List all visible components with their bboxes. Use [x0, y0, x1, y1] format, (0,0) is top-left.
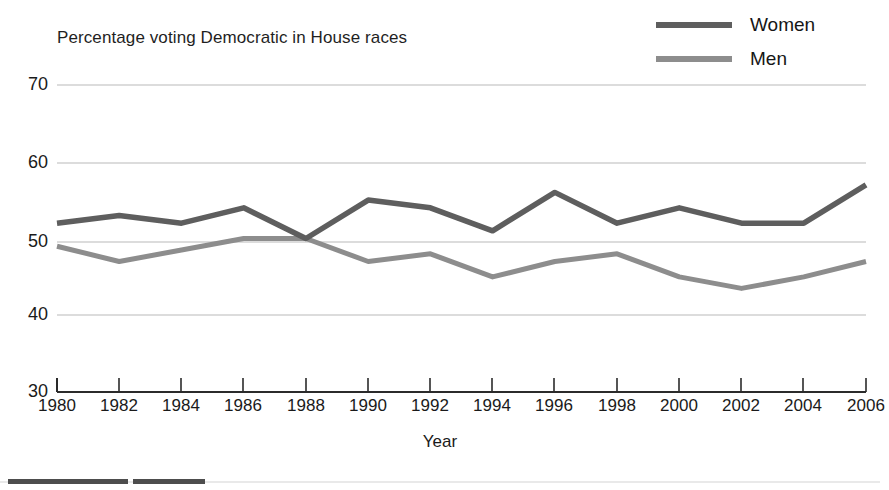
x-tick-label-1996: 1996: [525, 396, 583, 416]
x-tick-label-1984: 1984: [152, 396, 210, 416]
x-axis-ticks: [57, 378, 866, 392]
x-tick-label-1982: 1982: [90, 396, 148, 416]
x-tick-label-1992: 1992: [401, 396, 459, 416]
x-tick-label-2004: 2004: [774, 396, 832, 416]
x-tick-label-2000: 2000: [650, 396, 708, 416]
x-tick-label-2006: 2006: [837, 396, 889, 416]
page-footer-mark-left: [8, 479, 128, 484]
axis-lines: [57, 378, 866, 392]
gridlines: [57, 85, 866, 315]
x-tick-label-2002: 2002: [712, 396, 770, 416]
data-line-women: [57, 185, 866, 239]
x-tick-label-1990: 1990: [339, 396, 397, 416]
data-line-men: [57, 239, 866, 289]
x-tick-label-1986: 1986: [214, 396, 272, 416]
x-axis-title: Year: [0, 432, 880, 452]
page-footer-rule: [0, 481, 880, 483]
x-tick-label-1994: 1994: [463, 396, 521, 416]
x-tick-label-1980: 1980: [28, 396, 86, 416]
page-footer-mark-right: [133, 479, 205, 484]
x-tick-label-1998: 1998: [588, 396, 646, 416]
x-tick-label-1988: 1988: [277, 396, 335, 416]
